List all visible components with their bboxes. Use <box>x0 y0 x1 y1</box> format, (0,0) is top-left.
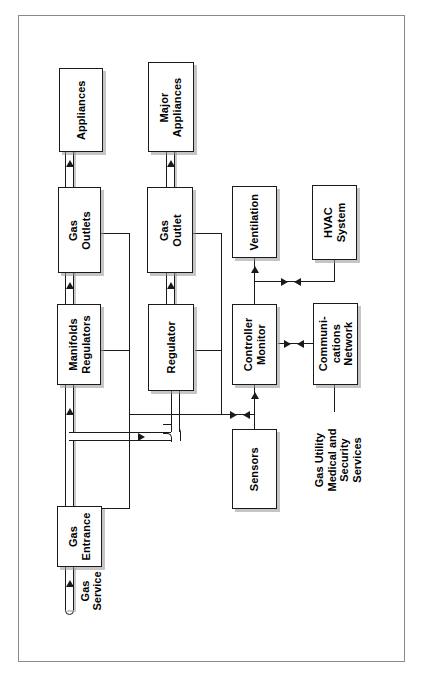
gas-pipe-regulator-to-outlet-arrow <box>167 282 175 289</box>
node-controller-monitor[interactable]: Controller Monitor <box>232 304 277 385</box>
diagram-page: Appliances Major Appliances Gas Outlets … <box>0 0 422 677</box>
node-appliances-label: Appliances <box>75 80 88 140</box>
signal-line-comms-to-external-services <box>334 385 335 412</box>
signal-arrow-sensors-to-controller <box>251 392 259 399</box>
gas-pipe-manifolds-to-outlets-arrow <box>66 282 74 289</box>
node-regulator-label: Regulator <box>165 321 178 373</box>
gas-pipe-outlets-to-appliances-arrow <box>66 160 74 167</box>
node-hvac-system-label: HVAC System <box>322 203 347 243</box>
signal-line-hvac-riser <box>334 260 335 282</box>
node-gas-outlet-label: Gas Outlet <box>157 214 182 246</box>
node-sensors-label: Sensors <box>248 447 261 491</box>
signal-line-manifolds-tap <box>100 350 130 351</box>
gas-branch-flow-arrow <box>138 433 145 441</box>
signal-line-regulator-tap <box>195 350 222 351</box>
signal-arrow-hvac-bus-right <box>281 278 288 286</box>
signal-bus-arrow-right <box>230 411 237 419</box>
node-appliances[interactable]: Appliances <box>59 68 103 152</box>
signal-bus-arrow-left <box>243 411 250 419</box>
signal-arrow-hvac-bus-left <box>294 278 301 286</box>
signal-bus-vertical-joint <box>129 414 130 456</box>
gas-service-flow-arrow <box>66 580 74 587</box>
gas-branch-pipe-horizontal <box>69 432 171 441</box>
node-manifolds-regulators[interactable]: Manifolds Regulators <box>57 304 101 385</box>
node-gas-outlets[interactable]: Gas Outlets <box>58 187 101 273</box>
gas-pipe-outlet-to-major-appliances <box>166 150 175 189</box>
signal-line-gas-entrance-riser <box>129 455 130 509</box>
signal-line-regulator-riser <box>221 350 222 415</box>
gas-pipe-outlets-to-appliances <box>65 150 74 189</box>
node-communications-network-label: Communi- cations Network <box>317 316 355 371</box>
signal-line-gas-outlet-riser <box>221 233 222 351</box>
node-communications-network[interactable]: Communi- cations Network <box>313 303 358 385</box>
node-sensors[interactable]: Sensors <box>232 429 277 509</box>
gas-trunk-pipe-entrance-to-manifolds <box>65 384 74 506</box>
node-controller-monitor-label: Controller Monitor <box>242 318 267 372</box>
node-ventilation-label: Ventilation <box>248 194 261 251</box>
gas-service-pipe <box>65 566 74 610</box>
gas-branch-elbow-inner <box>163 433 172 442</box>
signal-arrow-controller-to-ventilation <box>251 266 259 273</box>
node-regulator[interactable]: Regulator <box>148 304 194 391</box>
signal-arrow-comms-to-controller <box>297 340 304 348</box>
signal-line-gas-outlet-tap <box>193 233 222 234</box>
signal-line-gas-entrance-tap <box>102 508 130 509</box>
node-gas-entrance-label: Gas Entrance <box>67 513 92 561</box>
gas-trunk-flow-arrow <box>66 408 74 415</box>
node-manifolds-regulators-label: Manifolds Regulators <box>67 315 92 373</box>
signal-arrow-controller-to-comms <box>284 340 291 348</box>
gas-pipe-branch-to-regulator <box>171 390 180 432</box>
node-gas-outlets-label: Gas Outlets <box>67 211 92 250</box>
signal-line-gas-outlets-tap <box>100 233 130 234</box>
label-gas-service: Gas Service <box>78 556 104 626</box>
node-ventilation[interactable]: Ventilation <box>232 186 277 258</box>
signal-line-gas-outlets-riser <box>129 233 130 351</box>
node-major-appliances-label: Major Appliances <box>159 77 184 137</box>
node-major-appliances[interactable]: Major Appliances <box>148 62 194 152</box>
label-external-services: Gas Utility Medical and Security Service… <box>311 413 365 507</box>
gas-pipe-outlet-to-major-appliances-arrow <box>167 160 175 167</box>
node-hvac-system[interactable]: HVAC System <box>312 185 357 260</box>
node-gas-outlet[interactable]: Gas Outlet <box>147 187 193 273</box>
